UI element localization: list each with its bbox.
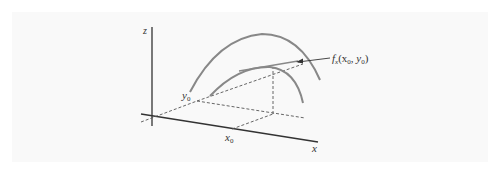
x-axis-label: x [311, 142, 317, 154]
tangent-line [239, 61, 298, 71]
x0-parallel-line [232, 114, 273, 129]
y0-parallel-line [197, 101, 305, 118]
fx-annotation-label: fx(x0, y0) [332, 52, 369, 66]
z-axis-label: z [142, 25, 147, 36]
partial-derivative-diagram: z x y0 x0 fx(x0, y0) [0, 0, 501, 174]
inner-trace-curve [210, 67, 303, 103]
x0-label: x0 [224, 131, 234, 145]
outer-surface-curve [190, 34, 320, 92]
